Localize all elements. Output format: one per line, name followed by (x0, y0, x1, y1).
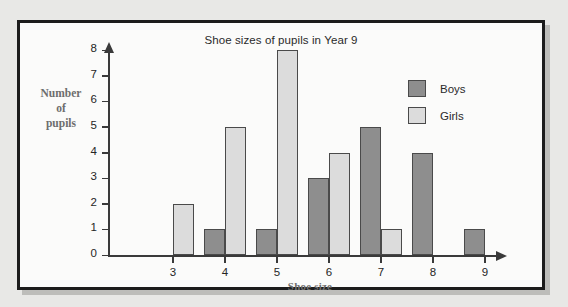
y-axis-title: Number of pupils (26, 86, 96, 131)
x-axis-tick-label-4: 4 (213, 266, 237, 278)
y-axis-tick-3 (102, 178, 109, 180)
x-axis-tick-label-5: 5 (265, 266, 289, 278)
chart-page: Shoe sizes of pupils in Year 9 876543210… (0, 0, 568, 307)
bar-girls-size-3 (173, 204, 194, 255)
y-axis-tick-6 (102, 101, 109, 103)
y-axis-tick-label-8: 8 (75, 42, 97, 54)
bar-boys-size-5 (256, 229, 277, 255)
y-axis-tick-label-1: 1 (75, 221, 97, 233)
y-axis-line (108, 51, 110, 256)
x-axis-tick-3 (172, 256, 174, 263)
y-axis-tick-label-2: 2 (75, 196, 97, 208)
bar-boys-size-7 (360, 127, 381, 255)
x-axis-tick-9 (484, 256, 486, 263)
bar-girls-size-6 (329, 153, 350, 256)
y-axis-tick-label-4: 4 (75, 145, 97, 157)
x-axis-tick-7 (380, 256, 382, 263)
x-axis-tick-6 (328, 256, 330, 263)
bar-girls-size-4 (225, 127, 246, 255)
x-axis-arrow-icon (496, 251, 507, 261)
bar-boys-size-8 (412, 153, 433, 256)
x-axis-tick-label-9: 9 (473, 266, 497, 278)
chart-panel: Shoe sizes of pupils in Year 9 876543210… (17, 20, 545, 290)
y-axis-tick-0 (102, 255, 109, 257)
bar-boys-size-6 (308, 178, 329, 255)
x-axis-line (108, 255, 498, 257)
legend-swatch-boys (408, 80, 426, 97)
chart-title: Shoe sizes of pupils in Year 9 (20, 34, 542, 46)
y-axis-title-line-3: pupils (26, 116, 96, 131)
x-axis-tick-8 (432, 256, 434, 263)
y-axis-tick-8 (102, 50, 109, 52)
x-axis-tick-label-6: 6 (317, 266, 341, 278)
x-axis-tick-label-8: 8 (421, 266, 445, 278)
y-axis-arrow-icon (104, 42, 114, 53)
x-axis-tick-label-3: 3 (161, 266, 185, 278)
x-axis-tick-4 (224, 256, 226, 263)
x-axis-tick-label-7: 7 (369, 266, 393, 278)
y-axis-tick-2 (102, 203, 109, 205)
y-axis-tick-7 (102, 75, 109, 77)
legend-swatch-girls (408, 107, 426, 124)
y-axis-title-line-2: of (26, 101, 96, 116)
y-axis-title-line-1: Number (26, 86, 96, 101)
legend-item-girls: Girls (408, 102, 466, 129)
x-axis-title: Shoe size (220, 280, 400, 292)
bar-girls-size-5 (277, 50, 298, 255)
plot-area: Shoe sizes of pupils in Year 9 876543210… (20, 23, 542, 287)
y-axis-tick-label-0: 0 (75, 247, 97, 259)
legend-label-girls: Girls (440, 110, 464, 122)
bar-boys-size-4 (204, 229, 225, 255)
y-axis-tick-4 (102, 152, 109, 154)
bar-girls-size-7 (381, 229, 402, 255)
y-axis-tick-1 (102, 229, 109, 231)
chart-legend: Boys Girls (408, 75, 466, 129)
y-axis-tick-label-7: 7 (75, 68, 97, 80)
y-axis-tick-5 (102, 126, 109, 128)
bar-boys-size-9 (464, 229, 485, 255)
x-axis-tick-5 (276, 256, 278, 263)
legend-item-boys: Boys (408, 75, 466, 102)
legend-label-boys: Boys (440, 83, 466, 95)
y-axis-tick-label-3: 3 (75, 170, 97, 182)
